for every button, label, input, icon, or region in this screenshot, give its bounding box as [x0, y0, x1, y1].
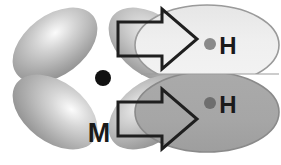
hydrogen-bottom-lobe — [135, 72, 279, 152]
metal-label: M — [88, 118, 111, 148]
orbital-interaction-figure: M H H — [0, 0, 281, 165]
hydrogen-bottom-nucleus-dot — [204, 97, 216, 109]
figure-canvas: M H H — [0, 0, 281, 165]
hydrogen-bottom-label: H — [219, 91, 236, 118]
hydrogen-top-label: H — [219, 32, 236, 59]
metal-nucleus-dot — [95, 70, 111, 86]
hydrogen-top-nucleus-dot — [204, 38, 216, 50]
